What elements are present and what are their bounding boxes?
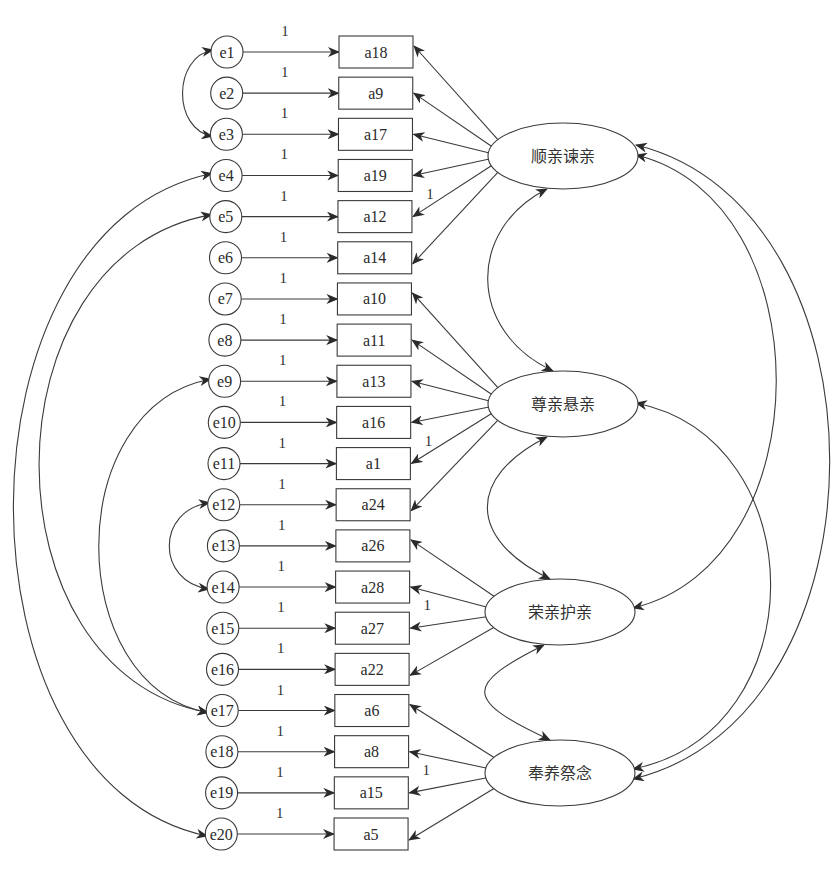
loading-path-a27 <box>410 617 488 629</box>
error-node: e4 <box>210 159 242 191</box>
factor-covariance <box>485 645 550 740</box>
error-weight-label: 1 <box>280 188 288 204</box>
factor-node: 荣亲护亲 <box>485 579 635 645</box>
indicator-label: a18 <box>364 44 387 61</box>
error-label: e14 <box>212 579 235 596</box>
error-node: e5 <box>210 201 242 233</box>
fixed-loading-label: 1 <box>424 597 432 613</box>
loading-path-a15 <box>409 778 488 793</box>
error-node: e18 <box>206 736 238 768</box>
indicator-label: a26 <box>361 537 384 554</box>
indicator-label: a12 <box>363 208 386 225</box>
indicator-label: a5 <box>364 826 379 843</box>
indicator-label: a19 <box>364 167 387 184</box>
indicator-label: a27 <box>361 620 384 637</box>
error-label: e16 <box>211 661 234 678</box>
error-node: e8 <box>209 324 241 356</box>
fixed-loading-label: 1 <box>423 762 431 778</box>
error-label: e12 <box>212 496 235 513</box>
error-node: e15 <box>207 612 239 644</box>
covariance-e9-e17 <box>99 379 211 712</box>
error-weight-label: 1 <box>277 682 285 698</box>
error-weight-label: 1 <box>277 599 285 615</box>
error-label: e1 <box>219 44 234 61</box>
factor-covariance <box>633 403 771 769</box>
error-weight-label: 1 <box>276 805 284 821</box>
error-weight-label: 1 <box>281 64 289 80</box>
error-weight-label: 1 <box>278 476 286 492</box>
factor-label: 荣亲护亲 <box>528 603 592 622</box>
factor-label: 尊亲悬亲 <box>531 395 595 414</box>
loading-path-a9 <box>414 93 494 148</box>
indicator-node: a27 <box>335 612 409 644</box>
loading-path-a6 <box>410 705 498 761</box>
nodes-layer: e1e2e3e4e5e6e7e8e9e10e11e12e13e14e15e16e… <box>205 36 638 850</box>
error-node: e9 <box>209 365 241 397</box>
indicator-node: a11 <box>337 324 411 356</box>
indicator-label: a28 <box>361 579 384 596</box>
error-weight-label: 1 <box>276 764 284 780</box>
error-weight-label: 1 <box>277 640 285 656</box>
covariance-e4-e20 <box>13 173 212 836</box>
error-label: e20 <box>210 826 233 843</box>
indicator-node: a24 <box>336 489 410 521</box>
indicator-node: a12 <box>338 201 412 233</box>
error-node: e13 <box>207 530 239 562</box>
fixed-loading-label: 1 <box>425 433 433 449</box>
error-label: e15 <box>211 620 234 637</box>
factor-covariance <box>487 437 550 579</box>
error-weight-label: 1 <box>278 435 286 451</box>
error-label: e18 <box>210 743 233 760</box>
error-label: e17 <box>211 702 234 719</box>
error-node: e11 <box>208 448 240 480</box>
indicator-label: a8 <box>364 743 379 760</box>
error-label: e19 <box>210 784 233 801</box>
error-weight-label: 1 <box>279 311 287 327</box>
loading-path-a14 <box>413 169 501 264</box>
error-weight-label: 1 <box>280 270 288 286</box>
indicator-node: a19 <box>338 159 412 191</box>
loading-path-a8 <box>410 752 489 769</box>
indicator-label: a11 <box>363 332 386 349</box>
fixed-loading-label: 1 <box>426 186 434 202</box>
error-node: e20 <box>205 818 237 850</box>
indicator-node: a14 <box>338 242 412 274</box>
error-label: e3 <box>219 126 234 143</box>
error-weight-label: 1 <box>280 229 288 245</box>
indicator-node: a15 <box>334 777 408 809</box>
indicator-label: a17 <box>364 126 387 143</box>
error-node: e16 <box>207 653 239 685</box>
error-weight-label: 1 <box>279 352 287 368</box>
indicator-node: a10 <box>337 283 411 315</box>
indicator-label: a22 <box>361 661 384 678</box>
indicator-label: a9 <box>368 85 383 102</box>
error-weight-label: 1 <box>279 393 287 409</box>
loading-path-a11 <box>412 340 494 396</box>
error-label: e13 <box>212 537 235 554</box>
error-weight-label: 1 <box>281 23 289 39</box>
factor-node: 奉养祭念 <box>485 740 635 806</box>
loading-path-a19 <box>413 159 490 176</box>
error-label: e7 <box>218 290 233 307</box>
error-weight-label: 1 <box>281 105 289 121</box>
factor-label: 顺亲谏亲 <box>531 147 595 166</box>
indicator-node: a28 <box>336 571 410 603</box>
error-weight-label: 1 <box>280 146 288 162</box>
error-weight-label: 1 <box>276 723 284 739</box>
error-weight-label: 1 <box>278 558 286 574</box>
loading-path-a16 <box>412 407 491 423</box>
loading-path-a28 <box>411 587 489 607</box>
error-node: e7 <box>209 283 241 315</box>
indicator-label: a6 <box>364 702 379 719</box>
error-label: e11 <box>213 455 236 472</box>
indicator-label: a1 <box>366 455 381 472</box>
error-label: e6 <box>218 249 233 266</box>
loading-path-a10 <box>412 293 501 391</box>
indicator-node: a18 <box>339 36 413 68</box>
indicator-node: a13 <box>337 365 411 397</box>
factor-label: 奉养祭念 <box>528 764 592 783</box>
indicator-label: a24 <box>362 496 385 513</box>
loading-path-a24 <box>411 417 501 511</box>
indicator-node: a5 <box>334 818 408 850</box>
factor-node: 顺亲谏亲 <box>488 123 638 189</box>
